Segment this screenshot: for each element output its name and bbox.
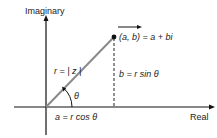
real-axis-arrow-icon [209, 105, 215, 110]
angle-label: θ [74, 92, 79, 101]
angle-arc-icon [62, 87, 72, 108]
point-dot [112, 35, 117, 40]
vector-overline-arrow-icon [118, 25, 142, 29]
diagram-graphics [0, 0, 217, 138]
complex-plane-diagram: Imaginary Real (a, b) = a + bi r = | z |… [0, 0, 217, 138]
real-axis-label: Real [190, 113, 209, 122]
imaginary-axis-label: Imaginary [25, 7, 65, 16]
radius-label: r = | z | [54, 67, 81, 76]
real-part-label: a = r cos θ [55, 113, 97, 122]
imag-part-label: b = r sin θ [119, 70, 159, 79]
point-label: (a, b) = a + bi [119, 33, 173, 42]
imaginary-axis [44, 15, 49, 135]
